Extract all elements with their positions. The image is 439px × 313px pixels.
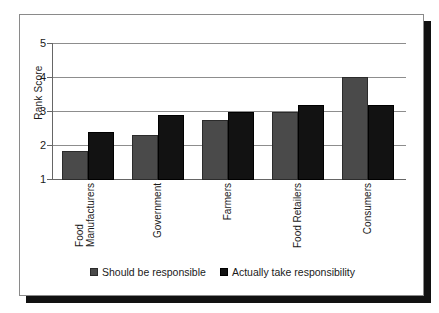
bar-group-food-manufacturers <box>56 43 122 180</box>
bar-group-consumers <box>336 43 402 180</box>
x-label-consumers: Consumers <box>362 183 373 234</box>
bar-should-food-manufacturers <box>62 151 88 180</box>
x-label-food-retailers: Food Retailers <box>292 183 303 248</box>
legend-label-should: Should be responsible <box>102 266 206 278</box>
bar-group-food-retailers <box>266 43 332 180</box>
y-axis-tick-labels: 5 4 3 2 1 <box>20 15 46 297</box>
bar-actual-food-manufacturers <box>88 132 114 180</box>
y-tick-label-2: 2 <box>22 140 46 151</box>
figure-frame: Rank Score 5 4 3 2 1 <box>19 14 424 296</box>
bar-actual-government <box>158 115 184 180</box>
x-label-farmers: Farmers <box>222 183 233 220</box>
legend-item-should-be-responsible: Should be responsible <box>90 266 206 278</box>
x-label-government: Government <box>152 183 163 238</box>
y-tick-label-1: 1 <box>22 174 46 185</box>
x-axis-category-labels: Food Manufacturers Government Farmers Fo… <box>52 183 406 263</box>
legend-item-actually-take-responsibility: Actually take responsibility <box>220 266 355 278</box>
bar-group-government <box>126 43 192 180</box>
bar-series-container <box>52 43 406 180</box>
bar-group-farmers <box>196 43 262 180</box>
legend-swatch-actual-icon <box>220 268 228 276</box>
plot-area: Rank Score 5 4 3 2 1 <box>20 15 425 297</box>
bar-should-government <box>132 135 158 180</box>
bar-actual-consumers <box>368 105 394 180</box>
x-label-food-manufacturers: Food Manufacturers <box>74 183 96 247</box>
y-tick-label-5: 5 <box>22 38 46 49</box>
chart-legend: Should be responsible Actually take resp… <box>20 266 425 278</box>
y-tick-label-4: 4 <box>22 72 46 83</box>
legend-swatch-should-icon <box>90 268 98 276</box>
bar-actual-food-retailers <box>298 105 324 180</box>
y-tick-label-3: 3 <box>22 106 46 117</box>
bar-should-food-retailers <box>272 112 298 181</box>
legend-label-actual: Actually take responsibility <box>232 266 355 278</box>
figure-container: Rank Score 5 4 3 2 1 <box>0 0 439 313</box>
bar-actual-farmers <box>228 112 254 181</box>
bar-should-consumers <box>342 77 368 180</box>
bar-should-farmers <box>202 120 228 180</box>
